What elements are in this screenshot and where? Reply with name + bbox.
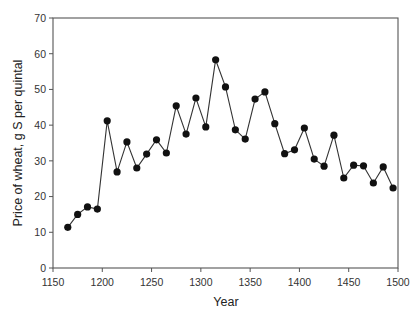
x-tick-label: 1450 xyxy=(337,276,361,288)
y-tick-label: 60 xyxy=(34,48,46,60)
data-point xyxy=(389,184,396,191)
data-point xyxy=(222,83,229,90)
data-point xyxy=(350,162,357,169)
data-point xyxy=(271,120,278,127)
x-tick-label: 1300 xyxy=(189,276,213,288)
y-tick-label: 40 xyxy=(34,119,46,131)
x-axis-title: Year xyxy=(213,295,238,309)
y-axis: 010203040506070 xyxy=(34,12,53,274)
data-point xyxy=(301,124,308,131)
x-tick-label: 1350 xyxy=(238,276,262,288)
data-point xyxy=(360,162,367,169)
x-tick-label: 1500 xyxy=(386,276,410,288)
data-point xyxy=(380,163,387,170)
series-line xyxy=(68,60,393,228)
data-point xyxy=(261,88,268,95)
data-point xyxy=(340,174,347,181)
y-tick-label: 70 xyxy=(34,12,46,24)
data-point xyxy=(123,138,130,145)
data-point xyxy=(251,95,258,102)
data-point xyxy=(84,203,91,210)
data-point xyxy=(232,126,239,133)
x-tick-label: 1150 xyxy=(42,276,65,288)
data-point xyxy=(320,163,327,170)
data-point xyxy=(153,136,160,143)
data-point xyxy=(182,130,189,137)
data-point xyxy=(74,211,81,218)
data-point xyxy=(370,179,377,186)
data-point xyxy=(242,135,249,142)
y-tick-label: 50 xyxy=(34,83,46,95)
data-point xyxy=(202,123,209,130)
data-point xyxy=(94,205,101,212)
data-point xyxy=(143,150,150,157)
wheat-price-chart: 010203040506070 115012001250130013501400… xyxy=(0,0,420,317)
data-point xyxy=(192,94,199,101)
data-point xyxy=(330,132,337,139)
x-tick-label: 1250 xyxy=(140,276,164,288)
y-tick-label: 10 xyxy=(34,226,46,238)
data-point xyxy=(64,224,71,231)
data-point xyxy=(291,146,298,153)
data-point xyxy=(212,56,219,63)
y-tick-label: 0 xyxy=(40,262,46,274)
y-axis-title: Price of wheat, g S per quintal xyxy=(11,60,25,227)
y-tick-label: 20 xyxy=(34,190,46,202)
data-point xyxy=(163,149,170,156)
x-tick-label: 1200 xyxy=(91,276,115,288)
data-point xyxy=(311,155,318,162)
data-point xyxy=(104,117,111,124)
data-series xyxy=(64,56,396,231)
data-point xyxy=(281,150,288,157)
x-tick-label: 1400 xyxy=(288,276,312,288)
data-point xyxy=(113,168,120,175)
x-axis: 11501200125013001350140014501500 xyxy=(42,268,410,288)
data-point xyxy=(133,164,140,171)
y-tick-label: 30 xyxy=(34,155,46,167)
data-point xyxy=(173,102,180,109)
